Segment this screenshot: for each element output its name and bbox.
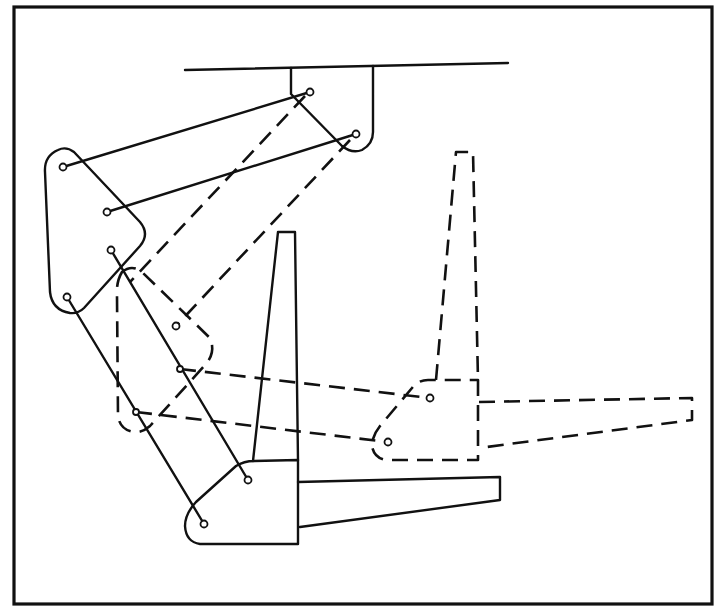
dashed-lower-rod-1 bbox=[180, 369, 430, 398]
dashed-coupler-link bbox=[117, 268, 212, 432]
solid-output-pin-1 bbox=[245, 477, 252, 484]
top-bracket bbox=[291, 66, 373, 151]
dashed-output-pin-2 bbox=[385, 439, 392, 446]
dashed-output-fin bbox=[436, 152, 478, 380]
solid-coupler-pin-2 bbox=[104, 209, 111, 216]
ground-pin-1 bbox=[307, 89, 314, 96]
solid-output-arm bbox=[298, 477, 500, 527]
linkage-diagram bbox=[0, 0, 717, 613]
dashed-upper-rod-1 bbox=[130, 96, 305, 282]
dashed-output-pin-1 bbox=[427, 395, 434, 402]
solid-coupler-pin-3 bbox=[108, 247, 115, 254]
solid-coupler-pin-4 bbox=[64, 294, 71, 301]
solid-output-fin bbox=[253, 232, 298, 461]
ground-line bbox=[185, 63, 508, 70]
dashed-coupler-pin-4 bbox=[133, 409, 139, 415]
solid-lower-rod-1 bbox=[111, 250, 248, 480]
ground-pin-2 bbox=[353, 131, 360, 138]
solid-output-pin-2 bbox=[201, 521, 208, 528]
dashed-upper-rod-2 bbox=[176, 140, 350, 326]
solid-output-bracket-body bbox=[185, 460, 298, 544]
diagram-frame bbox=[14, 7, 712, 604]
solid-coupler-link bbox=[45, 148, 145, 313]
solid-upper-rod-1 bbox=[63, 92, 310, 167]
dashed-output-arm bbox=[479, 398, 692, 448]
solid-coupler-pin-1 bbox=[60, 164, 67, 171]
solid-position bbox=[45, 92, 500, 544]
dashed-coupler-pin-2 bbox=[173, 323, 180, 330]
dashed-lower-rod-2 bbox=[136, 412, 388, 442]
dashed-coupler-pin-3 bbox=[177, 366, 183, 372]
